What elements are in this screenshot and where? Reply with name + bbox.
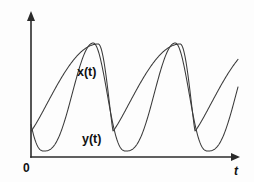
y-axis-arrowhead xyxy=(27,11,35,21)
curve-label-y: y(t) xyxy=(82,133,101,146)
axes-group xyxy=(27,11,240,161)
curve-y-of-t xyxy=(31,43,238,151)
curve-x-of-t xyxy=(31,44,238,131)
x-axis-arrowhead xyxy=(231,153,240,161)
oscillation-figure: x(t) y(t) 0 t xyxy=(0,0,254,182)
curve-label-x: x(t) xyxy=(77,66,96,79)
origin-label: 0 xyxy=(23,162,30,174)
curves-group xyxy=(31,43,238,151)
plot-canvas xyxy=(0,0,254,182)
t-axis-label: t xyxy=(234,165,238,177)
